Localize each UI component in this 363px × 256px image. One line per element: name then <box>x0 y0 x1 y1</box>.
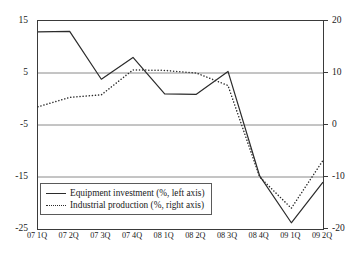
x-tick-label: 08 3Q <box>217 231 237 241</box>
solid-line-icon <box>46 188 66 198</box>
x-tick-label: 08 2Q <box>185 231 205 241</box>
legend-item-equipment-investment: Equipment investment (%, left axis) <box>46 187 205 199</box>
dotted-line-icon <box>46 200 66 210</box>
x-tick-label: 08 1Q <box>154 231 174 241</box>
y-left-tick-label: -15 <box>15 171 32 181</box>
x-axis: 07 1Q07 2Q07 3Q07 4Q08 1Q08 2Q08 3Q08 4Q… <box>37 231 322 245</box>
y-axis-left: 155-5-15-25 <box>0 20 32 228</box>
x-tick-label: 07 1Q <box>27 231 47 241</box>
x-tick-label: 09 2Q <box>312 231 332 241</box>
y-left-tick-label: -5 <box>20 119 32 129</box>
y-right-tick-label: -10 <box>328 171 345 181</box>
x-tick-label: 07 2Q <box>59 231 79 241</box>
y-axis-right: 20100-10-20 <box>328 20 362 228</box>
chart-legend: Equipment investment (%, left axis) Indu… <box>40 183 212 215</box>
x-tick-label: 09 1Q <box>280 231 300 241</box>
y-right-tick-label: 10 <box>328 67 342 77</box>
y-left-tick-label: 5 <box>23 67 32 77</box>
x-tick-label: 07 4Q <box>122 231 142 241</box>
legend-label-equipment-investment: Equipment investment (%, left axis) <box>70 188 205 199</box>
y-right-tick-label: 0 <box>328 119 337 129</box>
chart-container: 155-5-15-25 20100-10-20 07 1Q07 2Q07 3Q0… <box>0 0 363 256</box>
y-right-tick-label: 20 <box>328 15 342 25</box>
y-left-tick-label: 15 <box>19 15 33 25</box>
legend-item-industrial-production: Industrial production (%, right axis) <box>46 199 205 211</box>
legend-label-industrial-production: Industrial production (%, right axis) <box>70 200 204 211</box>
x-tick-label: 07 3Q <box>90 231 110 241</box>
x-tick-label: 08 4Q <box>249 231 269 241</box>
